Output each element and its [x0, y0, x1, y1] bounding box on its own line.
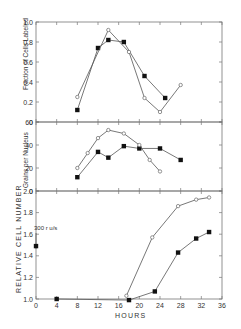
- tick-labels: 00.20.40.60.81.002040601.01.21.41.61.82.…: [23, 19, 226, 310]
- x-tick-label: 0: [34, 302, 38, 309]
- marker-filled-square: [106, 155, 110, 159]
- marker-filled-square: [75, 175, 79, 179]
- x-tick-label: 32: [197, 302, 205, 309]
- annotation-marker: [34, 244, 38, 248]
- marker-open-circle: [158, 170, 161, 173]
- y-tick-label: 1.4: [23, 252, 33, 259]
- marker-filled-square: [127, 298, 131, 302]
- y-tick-label: 60: [25, 119, 33, 126]
- marker-filled-square: [163, 96, 167, 100]
- data-series: [34, 28, 211, 302]
- y-tick-label: 1.0: [23, 296, 33, 303]
- marker-open-circle: [76, 95, 79, 98]
- marker-filled-square: [194, 236, 198, 240]
- marker-filled-square: [122, 144, 126, 148]
- xlabel: HOURS: [115, 312, 146, 319]
- marker-open-circle: [148, 158, 151, 161]
- marker-open-circle: [194, 198, 197, 201]
- marker-open-circle: [76, 166, 79, 169]
- series-line: [77, 130, 160, 171]
- x-tick-label: 16: [115, 302, 123, 309]
- axis-ticks: [36, 22, 222, 299]
- marker-open-circle: [151, 236, 154, 239]
- marker-open-circle: [158, 110, 161, 113]
- marker-filled-square: [54, 297, 58, 301]
- marker-open-circle: [143, 96, 146, 99]
- marker-open-circle: [138, 143, 141, 146]
- marker-open-circle: [96, 136, 99, 139]
- ylabel-middle: Grains per Nucleus: [22, 132, 30, 188]
- marker-open-circle: [207, 196, 210, 199]
- marker-filled-square: [142, 74, 146, 78]
- ylabel-bottom: RELATIVE CELL NUMBER: [15, 184, 22, 293]
- marker-filled-square: [158, 146, 162, 150]
- series-line: [77, 146, 180, 177]
- y-tick-label: 1.8: [23, 209, 33, 216]
- x-tick-label: 28: [177, 302, 185, 309]
- x-tick-label: 20: [135, 302, 143, 309]
- y-tick-label: 1.2: [23, 274, 33, 281]
- marker-filled-square: [176, 250, 180, 254]
- panel-frames: [36, 22, 222, 299]
- ylabel-top: Fraction of Cells Labeled: [22, 18, 29, 90]
- figure: 00.20.40.60.81.002040601.01.21.41.61.82.…: [0, 0, 241, 329]
- annotation-300r: 300 r u/s: [34, 225, 57, 231]
- x-tick-label: 12: [94, 302, 102, 309]
- series-line: [57, 232, 209, 300]
- x-tick-label: 24: [156, 302, 164, 309]
- marker-filled-square: [207, 230, 211, 234]
- marker-open-circle: [86, 151, 89, 154]
- marker-open-circle: [179, 83, 182, 86]
- x-tick-label: 36: [218, 302, 226, 309]
- marker-open-circle: [107, 28, 110, 31]
- marker-filled-square: [178, 158, 182, 162]
- marker-open-circle: [127, 50, 130, 53]
- marker-open-circle: [122, 132, 125, 135]
- marker-filled-square: [122, 40, 126, 44]
- marker-filled-square: [106, 38, 110, 42]
- marker-filled-square: [153, 289, 157, 293]
- y-tick-label: 1.6: [23, 231, 33, 238]
- marker-open-circle: [176, 204, 179, 207]
- x-tick-label: 4: [55, 302, 59, 309]
- series-line: [77, 40, 165, 110]
- marker-filled-square: [96, 150, 100, 154]
- marker-filled-square: [75, 108, 79, 112]
- marker-open-circle: [107, 128, 110, 131]
- marker-open-circle: [125, 294, 128, 297]
- series-line: [126, 197, 209, 295]
- x-tick-label: 8: [75, 302, 79, 309]
- y-tick-label: 0.2: [23, 99, 33, 106]
